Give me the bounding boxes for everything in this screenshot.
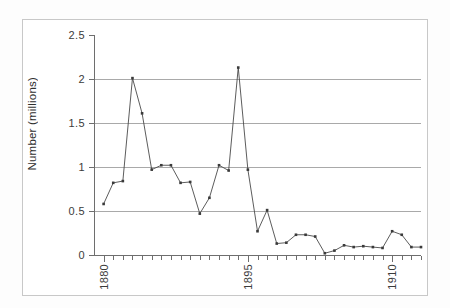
series-line <box>104 68 421 254</box>
data-point-marker <box>208 197 211 200</box>
data-series-layer <box>0 0 450 308</box>
data-point-marker <box>333 249 336 252</box>
data-point-marker <box>420 246 423 249</box>
data-point-marker <box>112 182 115 185</box>
data-point-marker <box>160 164 163 167</box>
data-point-marker <box>179 182 182 185</box>
data-point-marker <box>400 233 403 236</box>
data-point-marker <box>304 233 307 236</box>
data-point-marker <box>285 241 288 244</box>
data-point-marker <box>256 230 259 233</box>
data-point-marker <box>227 169 230 172</box>
data-point-marker <box>141 112 144 115</box>
data-point-marker <box>102 203 105 206</box>
data-point-marker <box>131 77 134 80</box>
data-point-marker <box>266 209 269 212</box>
data-point-marker <box>295 233 298 236</box>
data-point-marker <box>189 181 192 184</box>
data-point-marker <box>372 246 375 249</box>
data-point-marker <box>314 235 317 238</box>
data-point-marker <box>247 168 250 171</box>
data-point-marker <box>391 230 394 233</box>
data-point-marker <box>381 247 384 250</box>
data-point-marker <box>150 168 153 171</box>
data-point-marker <box>170 164 173 167</box>
data-point-marker <box>362 245 365 248</box>
data-point-marker <box>122 180 125 183</box>
data-point-marker <box>343 244 346 247</box>
data-point-marker <box>352 246 355 249</box>
data-point-marker <box>237 66 240 69</box>
chart-figure: Number (millions) 2.5 2 1.5 1 0.5 0 1880… <box>0 0 450 308</box>
data-point-marker <box>324 252 327 255</box>
data-point-marker <box>410 246 413 249</box>
data-point-marker <box>218 164 221 167</box>
data-point-marker <box>275 242 278 245</box>
data-point-marker <box>198 212 201 215</box>
